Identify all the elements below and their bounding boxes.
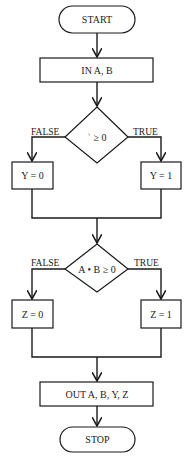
y0-box: Y = 0	[12, 162, 53, 189]
z1-box: Z = 1	[141, 300, 181, 328]
output-label: OUT A, B, Y, Z	[66, 389, 129, 400]
start-terminal: START	[59, 6, 135, 33]
input-label: IN A, B	[81, 65, 113, 76]
join-line-2	[32, 328, 161, 357]
decision2-diamond: A • B ≥ 0	[65, 244, 128, 292]
z0-label: Z = 0	[22, 309, 44, 320]
z0-box: Z = 0	[12, 300, 53, 328]
y1-label: Y = 1	[150, 170, 173, 181]
z1-label: Z = 1	[150, 309, 172, 320]
y0-label: Y = 0	[21, 170, 44, 181]
y1-box: Y = 1	[141, 162, 181, 189]
decision1-false-label: FALSE	[31, 127, 60, 137]
arrow-decision2-false	[32, 269, 65, 299]
decision1-label: ʿ ≥ 0	[88, 132, 107, 143]
stop-label: STOP	[85, 434, 110, 445]
decision2-label: A • B ≥ 0	[78, 264, 115, 275]
decision2-true-label: TRUE	[134, 258, 159, 268]
output-box: OUT A, B, Y, Z	[40, 382, 153, 406]
arrow-decision2-true	[128, 269, 161, 299]
decision2-false-label: FALSE	[31, 258, 60, 268]
flowchart: START IN A, B ʿ ≥ 0 FALSE TRUE Y = 0 Y =…	[0, 0, 190, 456]
arrow-decision1-false	[32, 137, 65, 161]
arrow-decision1-true	[128, 137, 161, 161]
start-label: START	[82, 14, 112, 25]
stop-terminal: STOP	[60, 427, 135, 452]
join-line-1	[32, 189, 161, 218]
input-box: IN A, B	[40, 58, 153, 82]
decision1-true-label: TRUE	[133, 127, 158, 137]
decision1-diamond: ʿ ≥ 0	[65, 107, 128, 163]
